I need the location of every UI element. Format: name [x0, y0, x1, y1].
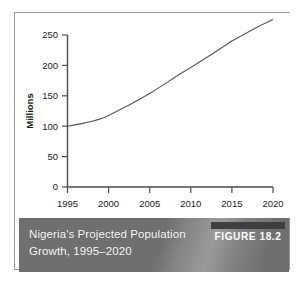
- population-curve: [68, 19, 274, 126]
- y-tick-label: 200: [42, 60, 58, 71]
- y-tick-label: 250: [42, 29, 58, 40]
- x-tick-label: 2005: [139, 198, 160, 209]
- figure-number-accent-bar: [211, 222, 285, 229]
- y-tick-label: 150: [42, 90, 58, 101]
- y-tick-label: 100: [42, 121, 58, 132]
- y-axis-tick-labels: 250 200 150 100 50 0: [42, 29, 58, 192]
- figure-number-block: FIGURE 18.2: [211, 222, 285, 248]
- y-axis-ticks: [62, 35, 68, 187]
- figure-caption-text: Nigeria's Projected Population Growth, 1…: [29, 226, 219, 260]
- x-axis-ticks: [68, 187, 274, 193]
- x-tick-label: 1995: [57, 198, 78, 209]
- figure-frame: 250 200 150 100 50 0 1995 2000 2005 2010: [14, 12, 290, 270]
- x-tick-label: 2000: [98, 198, 119, 209]
- x-tick-label: 2015: [221, 198, 242, 209]
- chart-plot-area: 250 200 150 100 50 0 1995 2000 2005 2010: [15, 13, 291, 218]
- y-tick-label: 0: [53, 181, 58, 192]
- caption-line-2: Growth, 1995–2020: [29, 243, 219, 260]
- figure-number-label: FIGURE 18.2: [214, 230, 282, 242]
- y-axis-title: Millions: [24, 93, 35, 128]
- caption-line-1: Nigeria's Projected Population: [29, 226, 219, 243]
- figure-caption-bar: Nigeria's Projected Population Growth, 1…: [19, 218, 289, 272]
- population-growth-line-chart: 250 200 150 100 50 0 1995 2000 2005 2010: [15, 13, 291, 218]
- y-tick-label: 50: [47, 151, 58, 162]
- x-tick-label: 2020: [262, 198, 283, 209]
- x-tick-label: 2010: [180, 198, 201, 209]
- x-axis-tick-labels: 1995 2000 2005 2010 2015 2020: [57, 198, 284, 209]
